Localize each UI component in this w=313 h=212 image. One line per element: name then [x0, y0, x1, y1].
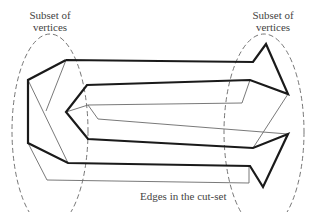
thin-edge — [46, 60, 66, 111]
left-subset-label-line1: Subset of — [20, 9, 80, 21]
thin-edge — [28, 80, 68, 163]
right-subset-label-line2: vertices — [243, 21, 303, 33]
right-subset-label: Subset of vertices — [243, 9, 303, 33]
cut-set-label: Edges in the cut-set — [140, 190, 226, 202]
left-subset-label-line2: vertices — [20, 21, 80, 33]
left-subset-label: Subset of vertices — [20, 9, 80, 33]
thick-edge-path — [28, 44, 288, 187]
right-subset-label-line1: Subset of — [243, 9, 303, 21]
cut-set-edge-inner-lower — [66, 105, 288, 134]
cut-set-diagram: Subset of vertices Subset of vertices Ed… — [0, 0, 313, 212]
